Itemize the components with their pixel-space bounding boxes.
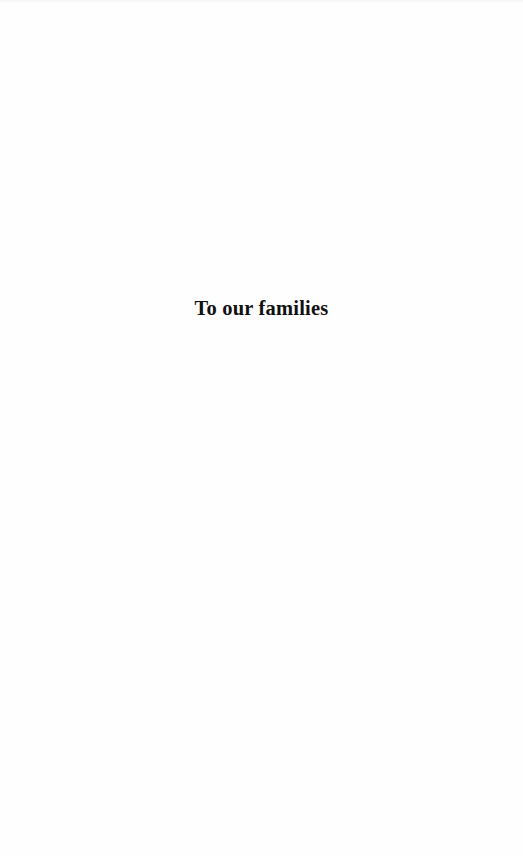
book-page: To our families <box>0 0 523 856</box>
dedication-text: To our families <box>0 296 523 320</box>
scan-edge <box>0 0 523 3</box>
